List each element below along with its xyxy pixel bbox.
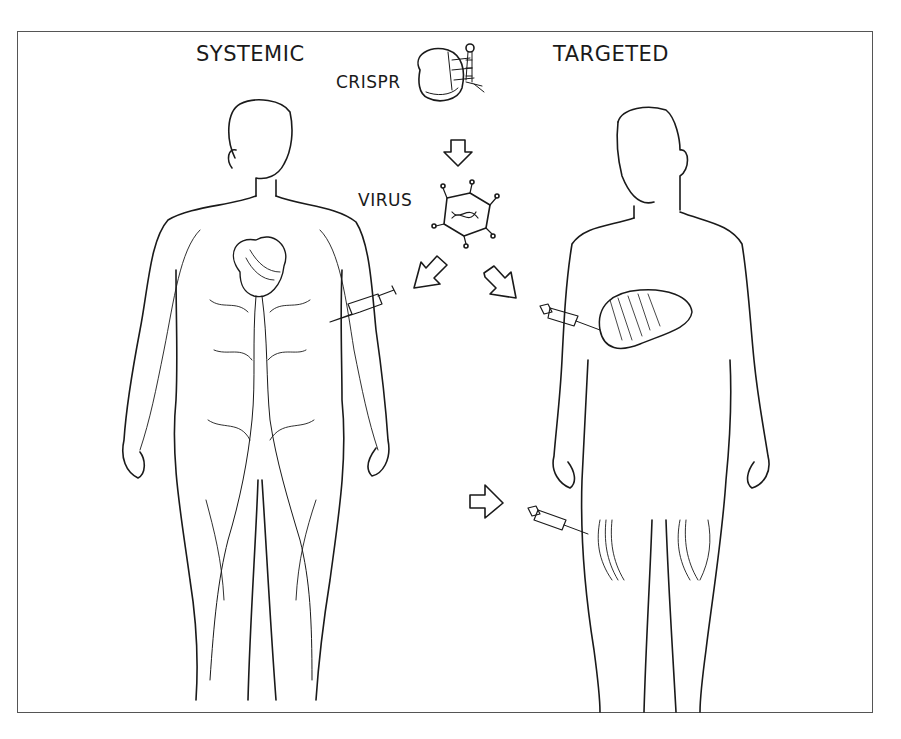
arrow-down-right-icon [484,266,516,298]
arrow-down-left-icon [414,256,447,288]
liver-icon [599,290,692,349]
syringe-icon [528,506,588,534]
systemic-body-figure [123,100,396,700]
cas9-protein-with-guide-rna-icon [418,44,484,101]
arrow-down-icon [444,140,472,166]
arrow-right-icon [470,485,503,518]
syringe-icon [540,304,600,330]
targeted-body-figure [528,107,769,712]
illustration [0,0,901,739]
syringe-icon [330,286,396,322]
viral-capsid-with-dna-icon [432,180,499,248]
